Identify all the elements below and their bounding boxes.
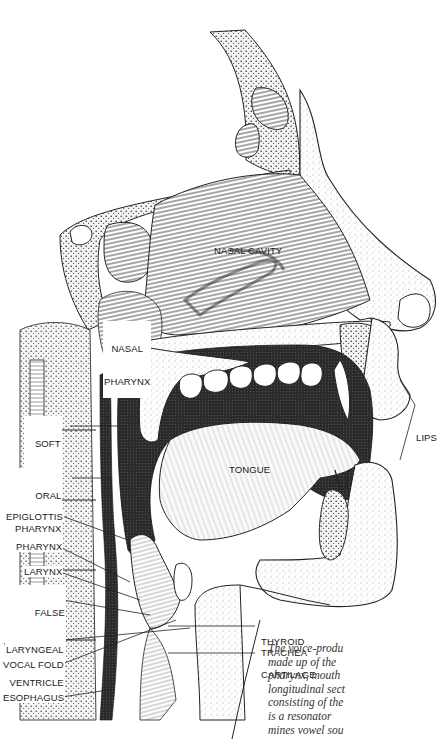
label-soft-palate-line1: SOFT <box>25 438 61 449</box>
label-nasal-cavity: NASAL CAVITY <box>214 245 282 256</box>
label-nasal-pharynx-line1: NASAL <box>104 343 150 354</box>
caption-line: made up of the <box>268 656 444 670</box>
label-nasal-pharynx: NASAL PHARYNX <box>103 321 151 398</box>
label-laryngeal-ventricle-line2: VENTRICLE <box>6 677 64 688</box>
label-epiglottis: EPIGLOTTIS <box>5 511 64 522</box>
figure-caption: The voice-produ made up of the pharynx, … <box>268 642 444 737</box>
label-lips: LIPS <box>416 432 437 443</box>
caption-line: pharynx, mouth <box>268 669 444 683</box>
caption-line: mines vowel sou <box>268 724 444 738</box>
caption-line: is a resonator <box>268 710 444 724</box>
larynx <box>130 535 245 720</box>
label-vocal-fold: VOCAL FOLD <box>2 659 65 670</box>
label-oral-pharynx-line2: PHARYNX <box>15 523 61 534</box>
frontal-bone <box>210 30 300 176</box>
label-false-vocal-fold-line1: FALSE <box>4 607 65 618</box>
label-nasal-pharynx-line2: PHARYNX <box>104 376 150 387</box>
label-laryngeal-ventricle-line1: LARYNGEAL <box>6 644 64 655</box>
pharynx-wall <box>100 370 118 720</box>
label-oral-pharynx-line1: ORAL <box>15 490 61 501</box>
caption-line: longitudinal sect <box>268 683 444 697</box>
label-pharynx: PHARYNX <box>15 541 63 552</box>
caption-line: consisting of the <box>268 696 444 710</box>
label-larynx: LARYNX <box>23 566 63 577</box>
label-esophagus: ESOPHAGUS <box>2 692 65 703</box>
anatomy-illustration <box>0 0 444 739</box>
label-tongue: TONGUE <box>229 464 270 475</box>
label-oral-pharynx: ORAL PHARYNX <box>14 468 62 545</box>
caption-line: The voice-produ <box>268 642 444 656</box>
